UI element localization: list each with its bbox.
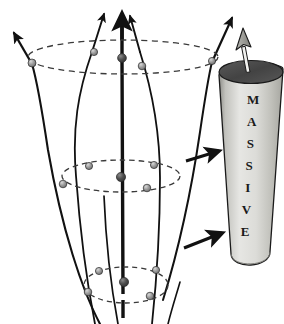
node-bot-left xyxy=(84,288,92,296)
node-top-midleft xyxy=(90,48,97,55)
field-line-outer-left xyxy=(32,64,100,324)
lower-force-arrow xyxy=(184,233,222,248)
node-top-right xyxy=(208,57,215,64)
node-bot-right xyxy=(146,292,154,300)
field-line-far-right-lower xyxy=(168,282,180,324)
massive-cylinder xyxy=(219,28,283,265)
field-line-outer-right-arrow xyxy=(212,18,232,62)
diagram-canvas xyxy=(0,0,284,324)
node-top-midright xyxy=(138,62,146,70)
upper-force-arrow xyxy=(186,151,219,161)
field-line-near-left xyxy=(104,196,118,324)
node-bot-center xyxy=(119,277,128,286)
node-mid-upright xyxy=(150,161,157,168)
cylinder-top-cap xyxy=(219,61,283,84)
node-mid-center xyxy=(116,172,125,181)
field-line-outer-right xyxy=(163,62,212,300)
node-mid-left xyxy=(59,180,67,188)
node-bot-upleft xyxy=(95,267,102,274)
cylinder-body xyxy=(219,65,283,265)
node-mid-upleft xyxy=(85,162,92,169)
node-top-center xyxy=(118,54,127,63)
node-top-left xyxy=(28,59,36,67)
field-line-right-inner-arrow xyxy=(130,16,140,52)
field-line-left-inner-arrow xyxy=(92,14,104,52)
node-bot-upright xyxy=(152,266,159,273)
central-axis-line xyxy=(122,26,123,318)
flux-tube-figure: M A S S I V E xyxy=(0,0,284,324)
node-mid-right xyxy=(143,184,151,192)
force-arrows xyxy=(184,151,222,248)
